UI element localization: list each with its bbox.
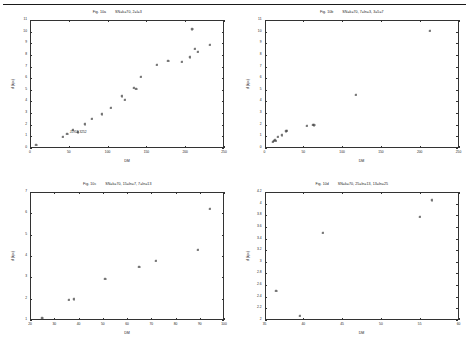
panel-b-xtick [381, 20, 382, 22]
panel-a-data-point [110, 107, 112, 109]
panel-b-xticklabel: 0 [264, 151, 266, 154]
panel-d-ytick [456, 215, 458, 216]
panel-b-ytick [456, 55, 458, 56]
panel-a-data-point [191, 28, 193, 30]
panel-a-ytick [222, 136, 224, 137]
panel-a-ytick [30, 148, 32, 149]
panel-b-yaxis-label: d (kpc) [246, 73, 250, 95]
panel-b-ytick [456, 101, 458, 102]
panel-a-ytick [222, 101, 224, 102]
panel-d-xtick [303, 192, 304, 194]
panel-a-yticklabel: 2 [14, 123, 27, 126]
chart-panel-d: Fig. 10dSN=k=70, 25=ln=13, 13=ln=25 3540… [235, 178, 469, 350]
panel-a-data-point [140, 76, 142, 78]
panel-c-ytick [30, 256, 32, 257]
panel-a-yticklabel: 9 [14, 42, 27, 45]
panel-c-xticklabel: 30 [52, 323, 56, 326]
panel-b-xtick [342, 146, 343, 148]
panel-b-yticklabel: 5 [249, 88, 262, 91]
panel-c-xticklabel: 40 [77, 323, 81, 326]
panel-d-ytick [456, 320, 458, 321]
panel-c-yticklabel: 2 [14, 297, 27, 300]
panel-b-xtick [459, 146, 460, 148]
panel-d-ytick [456, 250, 458, 251]
panel-b-yticklabel: 9 [249, 42, 262, 45]
panel-a-data-point [180, 61, 182, 63]
panel-a-ytick [30, 136, 32, 137]
panel-d-ytick [265, 215, 267, 216]
panel-a-yticklabel: 11 [14, 18, 27, 21]
panel-d-xticklabel: 60 [457, 323, 461, 326]
panel-c-xtick [176, 192, 177, 194]
panel-d-ytick [456, 192, 458, 193]
panel-a-xticklabel: 200 [182, 151, 188, 154]
panel-a-yticklabel: 0 [14, 146, 27, 149]
panel-a-xtick [185, 20, 186, 22]
panel-a-data-point [196, 50, 198, 52]
panel-d-yticklabel: 3.8 [249, 214, 262, 217]
panel-a-ytick [30, 125, 32, 126]
panel-grid: Fig. 10aSN=k=70, 2=l=3 05010015020025001… [0, 6, 469, 350]
panel-d-xtick [420, 318, 421, 320]
panel-d-ytick [456, 239, 458, 240]
panel-b-data-point [355, 93, 357, 95]
panel-a-data-point [189, 56, 191, 58]
panel-d-xtick [459, 318, 460, 320]
panel-c-xticklabel: 90 [198, 323, 202, 326]
panel-d-ytick [456, 227, 458, 228]
panel-d-ytick [265, 192, 267, 193]
panel-a-yticklabel: 5 [14, 88, 27, 91]
panel-d-xtick [342, 192, 343, 194]
panel-c-ytick [222, 192, 224, 193]
panel-c-ytick [30, 320, 32, 321]
panel-d-title-text: Fig. 10d [315, 182, 328, 186]
panel-d-ytick [265, 250, 267, 251]
panel-c-yticklabel: 1 [14, 318, 27, 321]
panel-a-data-point [35, 144, 37, 146]
panel-d-xtick [303, 318, 304, 320]
panel-a-ytick [30, 113, 32, 114]
panel-a-ytick [30, 78, 32, 79]
panel-a-yticklabel: 6 [14, 77, 27, 80]
panel-a-ytick [30, 43, 32, 44]
panel-c-yticklabel: 5 [14, 233, 27, 236]
panel-b-xtick [420, 20, 421, 22]
panel-b-ytick [265, 32, 267, 33]
panel-c-ytick [222, 299, 224, 300]
panel-a-xtick [224, 146, 225, 148]
panel-d-ytick [265, 262, 267, 263]
panel-d-title: Fig. 10dSN=k=70, 25=ln=13, 13=ln=25 [235, 182, 469, 186]
panel-b-xtick [303, 146, 304, 148]
panel-d-yticklabel: 2 [249, 318, 262, 321]
panel-c-xtick [151, 192, 152, 194]
chart-panel-c: Fig. 10cSN=k=70, 15=ln=7, 7=ln=13 203040… [0, 178, 235, 350]
panel-c-title: Fig. 10cSN=k=70, 15=ln=7, 7=ln=13 [0, 182, 235, 186]
panel-a-data-point [135, 87, 137, 89]
panel-d-ytick [265, 227, 267, 228]
panel-c-data-point [155, 259, 157, 261]
panel-a-xticklabel: 250 [221, 151, 227, 154]
panel-c-data-point [68, 299, 70, 301]
panel-b-xtick [342, 20, 343, 22]
panel-d-xticklabel: 45 [340, 323, 344, 326]
panel-b-yticklabel: 8 [249, 53, 262, 56]
panel-c-title-params: SN=k=70, 15=ln=7, 7=ln=13 [105, 182, 151, 186]
panel-d-frame [265, 192, 459, 320]
panel-d-yaxis-label: d (kpc) [246, 245, 250, 267]
panel-c-xtick [151, 318, 152, 320]
panel-a-ytick [30, 67, 32, 68]
panel-c-data-point [104, 278, 106, 280]
panel-b-ytick [265, 20, 267, 21]
panel-b-xtick [420, 146, 421, 148]
panel-d-title-params: SN=k=70, 25=ln=13, 13=ln=25 [338, 182, 388, 186]
panel-a-title-params: SN=k=70, 2=l=3 [115, 10, 142, 14]
panel-c-xticklabel: 20 [28, 323, 32, 326]
panel-b-ytick [265, 113, 267, 114]
panel-a-xtick [108, 146, 109, 148]
panel-b-xticklabel: 150 [378, 151, 384, 154]
panel-b-data-point [274, 139, 276, 141]
panel-b-xticklabel: 200 [417, 151, 423, 154]
panel-a-data-point [83, 123, 85, 125]
panel-a-data-point [61, 135, 63, 137]
panel-a-data-point [123, 99, 125, 101]
